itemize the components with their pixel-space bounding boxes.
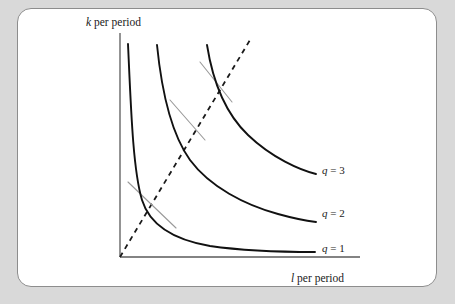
curve-label-q3-value: = 3	[328, 164, 346, 176]
isoquant-curve-q3	[207, 45, 316, 174]
x-axis-label-text: per period	[294, 272, 344, 285]
expansion-ray-dashed-line	[120, 40, 250, 257]
curve-label-q3: q = 3	[322, 164, 345, 176]
isoquant-curve-q2	[157, 45, 316, 222]
isoquant-curve-q1	[128, 44, 315, 252]
curve-label-q2: q = 2	[322, 207, 345, 219]
y-axis-label-text: per period	[91, 16, 141, 29]
y-axis-label: k per period	[86, 16, 141, 29]
x-axis-label: l per period	[291, 272, 344, 285]
isoquant-diagram: k per period l per period q = 3 q = 2 q …	[0, 0, 455, 304]
curve-label-q1-value: = 1	[328, 242, 345, 254]
curve-label-q2-value: = 2	[328, 207, 345, 219]
curve-label-q1: q = 1	[322, 242, 345, 254]
tangent-segment-q1	[128, 182, 176, 228]
